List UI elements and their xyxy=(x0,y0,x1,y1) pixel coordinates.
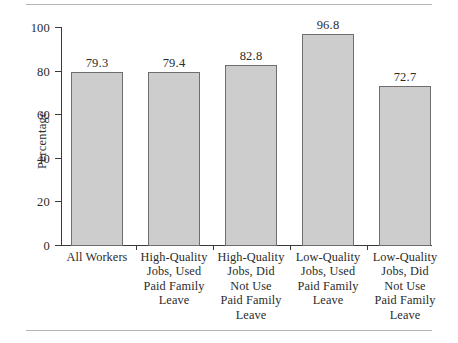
y-tick-label-80: 80 xyxy=(37,65,50,78)
x-label-line: Jobs, Did xyxy=(212,264,290,278)
y-tick-label-40: 40 xyxy=(37,152,50,165)
x-label-line: Not Use xyxy=(212,279,290,293)
bar-high-quality-used: 79.4 xyxy=(148,72,200,246)
x-label-high-quality-not-used: High-Quality Jobs, Did Not Use Paid Fami… xyxy=(212,250,290,322)
x-label-line: Leave xyxy=(135,293,213,307)
y-tick-label-0: 0 xyxy=(44,239,50,252)
bar-value-low-quality-used: 96.8 xyxy=(317,19,340,32)
bar-low-quality-not-used: 72.7 xyxy=(379,86,431,246)
x-label-line: Paid Family xyxy=(289,279,367,293)
bar-all-workers: 79.3 xyxy=(71,72,123,246)
x-label-line: Leave xyxy=(212,308,290,322)
bar-value-low-quality-not-used: 72.7 xyxy=(394,71,417,84)
bar-high-quality-not-used: 82.8 xyxy=(225,65,277,246)
bar-low-quality-used: 96.8 xyxy=(302,34,354,246)
y-tick-40: 40 xyxy=(55,158,61,159)
bar-chart: Percentage 100 80 60 40 20 0 79.3 79.4 8… xyxy=(0,0,458,343)
x-label-line: High-Quality xyxy=(135,250,213,264)
x-label-line: Paid Family xyxy=(212,293,290,307)
y-tick-80: 80 xyxy=(55,71,61,72)
page-rule-top xyxy=(26,4,432,5)
x-label-line: Low-Quality xyxy=(366,250,444,264)
x-label-low-quality-used: Low-Quality Jobs, Used Paid Family Leave xyxy=(289,250,367,308)
x-label-line: Jobs, Did xyxy=(366,264,444,278)
y-tick-20: 20 xyxy=(55,201,61,202)
x-label-line: Leave xyxy=(289,293,367,307)
x-label-line: Paid Family xyxy=(135,279,213,293)
x-label-line: Leave xyxy=(366,308,444,322)
x-label-all-workers: All Workers xyxy=(58,250,136,264)
x-label-line: Paid Family xyxy=(366,293,444,307)
x-label-low-quality-not-used: Low-Quality Jobs, Did Not Use Paid Famil… xyxy=(366,250,444,322)
bar-value-high-quality-used: 79.4 xyxy=(163,57,186,70)
y-tick-label-60: 60 xyxy=(37,108,50,121)
x-label-line: High-Quality xyxy=(212,250,290,264)
x-label-line: Jobs, Used xyxy=(135,264,213,278)
y-tick-60: 60 xyxy=(55,114,61,115)
page-rule-bottom xyxy=(26,330,432,331)
y-tick-0: 0 xyxy=(55,245,61,246)
y-tick-label-20: 20 xyxy=(37,195,50,208)
y-axis-line xyxy=(61,27,62,246)
bar-value-all-workers: 79.3 xyxy=(86,57,109,70)
x-label-line: Not Use xyxy=(366,279,444,293)
x-label-high-quality-used: High-Quality Jobs, Used Paid Family Leav… xyxy=(135,250,213,308)
x-label-line: Jobs, Used xyxy=(289,264,367,278)
y-tick-100: 100 xyxy=(55,27,61,28)
bar-value-high-quality-not-used: 82.8 xyxy=(240,50,263,63)
x-label-line: Low-Quality xyxy=(289,250,367,264)
y-tick-label-100: 100 xyxy=(31,21,50,34)
x-label-line: All Workers xyxy=(58,250,136,264)
